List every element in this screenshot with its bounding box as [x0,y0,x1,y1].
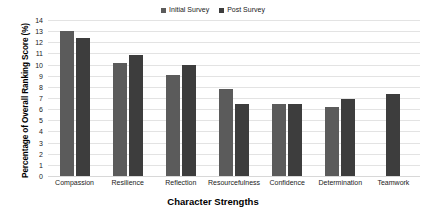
y-axis-tick-label: 14 [35,17,43,24]
y-axis-tick-label: 1 [39,161,43,168]
y-axis-tick-label: 10 [35,61,43,68]
bar-initial-survey-reflection [166,75,180,176]
legend-item-initial-survey: Initial Survey [161,6,209,14]
bar-post-survey-teamwork [386,94,400,176]
bar-initial-survey-confidence [272,104,286,176]
bar-group [367,20,420,176]
bar-post-survey-compassion [76,38,90,176]
bar-initial-survey-resourcefulness [219,89,233,176]
x-axis-tick-label: Resourcefulness [208,178,260,187]
bar-group [314,20,367,176]
x-axis-tick-label: Compassion [55,178,94,187]
bar-post-survey-reflection [182,65,196,176]
bar-group [261,20,314,176]
gridline: 0 [48,176,420,177]
y-axis-tick-label: 11 [36,50,43,57]
y-axis-tick-label: 5 [39,117,43,124]
y-axis-tick-label: 8 [39,83,43,90]
y-axis-tick-label: 7 [39,95,43,102]
x-axis-tick-label: Teamwork [377,178,409,187]
x-axis-tick-label: Confidence [269,178,304,187]
bar-chart: Initial Survey Post Survey Percentage of… [0,0,426,218]
y-axis-tick-label: 12 [35,39,43,46]
legend-swatch-initial-survey [161,8,166,13]
y-axis-tick-label: 6 [39,106,43,113]
bar-group [101,20,154,176]
bar-group [207,20,260,176]
x-axis-tick-label: Determination [318,178,362,187]
y-axis-title: Percentage of Overall Ranking Score (%) [21,16,30,186]
bar-initial-survey-resilience [113,63,127,176]
y-axis-tick-label: 3 [39,139,43,146]
plot-area: 01234567891011121314 [48,20,420,176]
bar-group [154,20,207,176]
legend-item-post-survey: Post Survey [219,6,265,14]
y-axis-tick-label: 2 [39,150,43,157]
x-axis-tick-labels: CompassionResilienceReflectionResourcefu… [48,178,420,190]
y-axis-tick-label: 13 [35,28,43,35]
bar-post-survey-determination [341,99,355,176]
legend-swatch-post-survey [219,8,224,13]
bar-post-survey-resourcefulness [235,104,249,176]
y-axis-tick-label: 4 [39,128,43,135]
x-axis-tick-label: Resilience [112,178,144,187]
bar-post-survey-resilience [129,55,143,176]
bar-initial-survey-compassion [60,31,74,176]
chart-legend: Initial Survey Post Survey [0,6,426,14]
bar-series-container [48,20,420,176]
y-axis-tick-label: 9 [39,72,43,79]
bar-initial-survey-determination [325,107,339,176]
bar-post-survey-confidence [288,104,302,176]
x-axis-tick-label: Reflection [165,178,196,187]
bar-group [48,20,101,176]
y-axis-tick-label: 0 [39,173,43,180]
legend-label-initial-survey: Initial Survey [169,6,209,14]
x-axis-title: Character Strengths [0,196,426,207]
legend-label-post-survey: Post Survey [227,6,265,14]
